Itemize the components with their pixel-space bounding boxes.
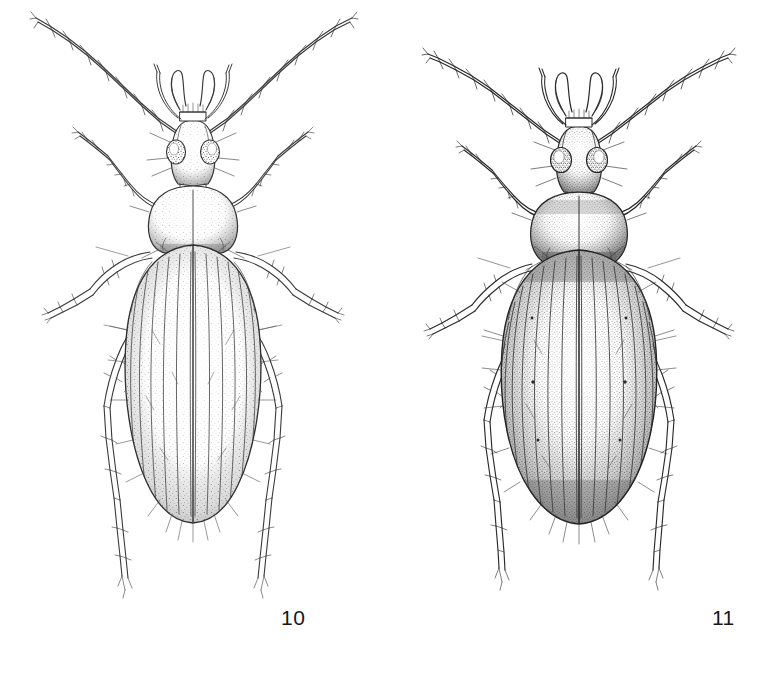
palp-left-11	[539, 68, 566, 125]
foreleg-left-11	[456, 141, 547, 219]
figure-10-beetle	[0, 0, 386, 673]
beetle-11-drawing	[422, 48, 736, 590]
palp-right-10	[205, 64, 232, 119]
figure-11-beetle	[386, 0, 772, 673]
foreleg-left-10	[72, 127, 163, 211]
elytra-11	[482, 244, 676, 544]
palp-left-10	[154, 64, 181, 119]
eye-left-11	[551, 148, 572, 173]
elytra-10	[108, 240, 278, 542]
mandible-right-11	[586, 73, 603, 116]
head-10	[147, 64, 239, 190]
mandible-right-10	[200, 71, 215, 110]
antenna-left-10	[30, 12, 180, 136]
foreleg-right-11	[611, 141, 702, 219]
figure-label-10: 10	[281, 607, 305, 628]
eye-right-10	[201, 140, 220, 164]
beetle-10-drawing	[30, 12, 358, 598]
antenna-left-11	[422, 48, 564, 146]
palp-right-11	[592, 68, 619, 125]
figure-label-11: 11	[712, 607, 735, 628]
mandible-left-11	[555, 73, 572, 116]
illustration-plate: 10 11	[0, 0, 772, 673]
eye-right-11	[587, 148, 608, 173]
foreleg-right-10	[223, 127, 314, 211]
antenna-right-11	[594, 48, 736, 146]
mandible-left-10	[171, 71, 186, 110]
eye-left-10	[167, 140, 186, 164]
